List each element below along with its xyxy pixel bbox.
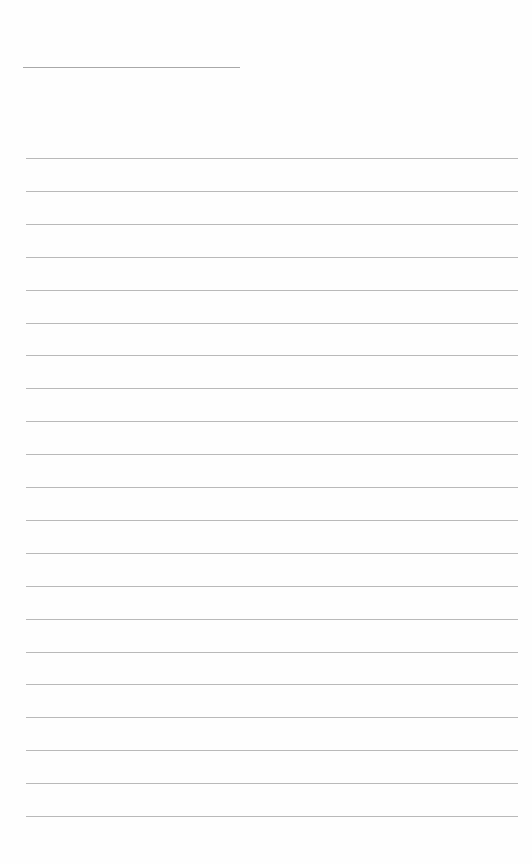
ruled-line	[26, 487, 518, 488]
header-line	[23, 67, 240, 68]
ruled-line	[26, 355, 518, 356]
ruled-line	[26, 619, 518, 620]
ruled-line	[26, 454, 518, 455]
ruled-line	[26, 652, 518, 653]
ruled-line	[26, 553, 518, 554]
ruled-line	[26, 388, 518, 389]
ruled-line	[26, 586, 518, 587]
ruled-line	[26, 323, 518, 324]
ruled-line	[26, 816, 518, 817]
ruled-line	[26, 257, 518, 258]
lined-page	[0, 0, 532, 864]
ruled-line	[26, 421, 518, 422]
ruled-line	[26, 750, 518, 751]
ruled-line	[26, 783, 518, 784]
ruled-line	[26, 224, 518, 225]
ruled-line	[26, 684, 518, 685]
ruled-line	[26, 158, 518, 159]
ruled-line	[26, 290, 518, 291]
ruled-line	[26, 520, 518, 521]
ruled-line	[26, 191, 518, 192]
ruled-line	[26, 717, 518, 718]
